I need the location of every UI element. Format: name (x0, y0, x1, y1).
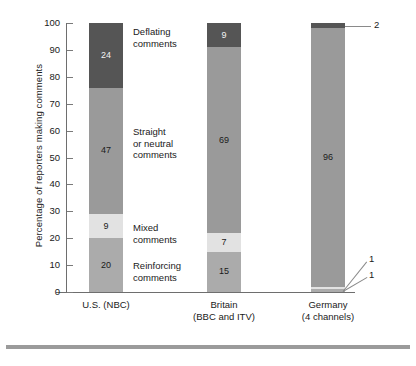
legend-label-line: comments (133, 234, 205, 246)
legend-label-line: Straight (133, 126, 205, 138)
legend-label-2: Straightor neutralcomments (133, 126, 205, 161)
legend-label-line: Deflating (133, 26, 205, 38)
stacked-bar-chart: Percentage of reporters making comments … (0, 0, 416, 366)
x-axis-label-line1: Britain (164, 299, 284, 311)
bar-segment-britain-straight: 69 (207, 47, 241, 233)
y-tick-20 (67, 238, 73, 239)
segment-value-label: 9 (103, 222, 108, 231)
bar-segment-us-nbc-reinforcing: 20 (89, 238, 123, 292)
y-tick-50 (67, 158, 73, 159)
y-tick-label-80: 80 (20, 71, 60, 82)
segment-value-label: 24 (101, 51, 111, 60)
bar-segment-us-nbc-mixed: 9 (89, 214, 123, 238)
y-tick-label-20: 20 (20, 232, 60, 243)
x-axis-label-us-nbc: U.S. (NBC) (46, 299, 166, 311)
bar-segment-britain-deflating: 9 (207, 23, 241, 47)
y-tick-30 (67, 211, 73, 212)
bottom-divider-rule (6, 345, 410, 349)
legend-label-line: or neutral (133, 138, 205, 150)
callout-label-deflating: 2 (374, 19, 379, 30)
y-tick-0 (67, 292, 73, 293)
y-tick-60 (67, 131, 73, 132)
legend-label-1: Deflatingcomments (133, 26, 205, 49)
y-tick-80 (67, 77, 73, 78)
bar-segment-germany-straight: 96 (311, 28, 345, 286)
bar-us-nbc: 2447920 (89, 23, 123, 292)
bar-segment-britain-reinforcing: 15 (207, 252, 241, 292)
segment-value-label: 20 (101, 261, 111, 270)
legend-label-4: Reinforcingcomments (133, 260, 205, 283)
y-tick-label-50: 50 (20, 152, 60, 163)
y-tick-label-40: 40 (20, 178, 60, 189)
segment-value-label: 15 (219, 267, 229, 276)
y-tick-label-60: 60 (20, 125, 60, 136)
bar-segment-britain-mixed: 7 (207, 233, 241, 252)
y-tick-label-10: 10 (20, 259, 60, 270)
legend-label-line: comments (133, 38, 205, 50)
x-axis-label-line1: U.S. (NBC) (46, 299, 166, 311)
y-tick-10 (67, 265, 73, 266)
y-tick-100 (67, 23, 73, 24)
x-axis-label-line1: Germany (268, 299, 388, 311)
callout-label-mixed: 1 (369, 253, 374, 264)
x-axis-label-line2: (4 channels) (268, 311, 388, 323)
y-tick-label-90: 90 (20, 44, 60, 55)
y-tick-label-100: 100 (20, 17, 60, 28)
leader-line-deflating (345, 26, 371, 27)
legend-label-line: Mixed (133, 222, 205, 234)
x-axis-label-britain: Britain(BBC and ITV) (164, 299, 284, 323)
segment-value-label: 96 (323, 153, 333, 162)
leader-line-mixed (343, 261, 368, 292)
x-axis-label-line2: (BBC and ITV) (164, 311, 284, 323)
y-tick-label-70: 70 (20, 98, 60, 109)
x-axis-line (56, 292, 355, 293)
y-tick-label-30: 30 (20, 205, 60, 216)
legend-label-3: Mixedcomments (133, 222, 205, 245)
bar-segment-us-nbc-deflating: 24 (89, 23, 123, 88)
bar-germany: 96 (311, 23, 345, 292)
bar-segment-us-nbc-straight: 47 (89, 88, 123, 214)
segment-value-label: 69 (219, 136, 229, 145)
y-tick-label-0: 0 (20, 286, 60, 297)
legend-label-line: Reinforcing (133, 260, 205, 272)
segment-value-label: 9 (221, 31, 226, 40)
bar-segment-germany-reinforcing (311, 289, 345, 292)
segment-value-label: 47 (101, 146, 111, 155)
callout-label-reinforcing: 1 (369, 269, 374, 280)
legend-label-line: comments (133, 272, 205, 284)
y-tick-40 (67, 184, 73, 185)
segment-value-label: 7 (221, 238, 226, 247)
bar-britain: 969715 (207, 23, 241, 292)
y-tick-90 (67, 50, 73, 51)
x-axis-label-germany: Germany(4 channels) (268, 299, 388, 323)
legend-label-line: comments (133, 149, 205, 161)
y-tick-70 (67, 104, 73, 105)
